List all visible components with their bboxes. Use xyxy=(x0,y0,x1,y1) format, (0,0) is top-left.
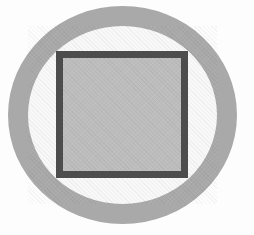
square-texture xyxy=(63,58,181,171)
inner-square-shape xyxy=(56,51,188,178)
diagram-canvas xyxy=(0,0,254,235)
